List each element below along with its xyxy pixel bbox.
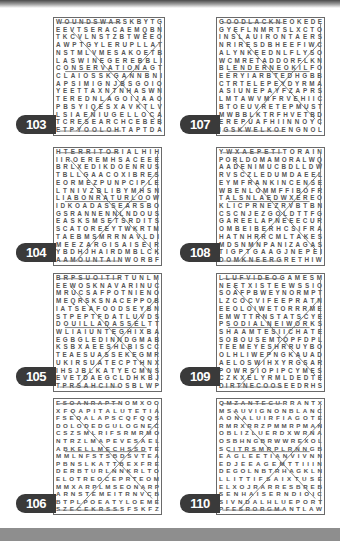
- puzzle-number-label: 107: [180, 115, 220, 134]
- puzzle-number-label: 105: [16, 367, 56, 386]
- word-search-grid: WOUNDSWARSKBYTGEEVTSERACAEMQBNTKCVLNSTZB…: [53, 17, 165, 136]
- found-word-lines: [217, 274, 325, 392]
- word-search-grid: HTERRITORIALHIHIIROEREMHSACEEEBRLXEDIKDO…: [53, 147, 162, 266]
- found-word-lines: [54, 18, 165, 136]
- top-shadow-bar: [0, 0, 340, 8]
- found-word-lines: [54, 148, 162, 266]
- found-word-lines: [54, 399, 162, 515]
- puzzle-number-label: 110: [180, 494, 220, 513]
- found-word-lines: [54, 274, 162, 392]
- word-search-grid: QMZANTECURRANTXMSAUVIGNONBLANCAONALUIRFI…: [216, 398, 325, 515]
- word-search-grid: ESOANRAPTNOMXOOXFOAPITALUTETIAFSEOALAPSC…: [53, 398, 162, 515]
- word-search-grid: LLUFVIDEOGAMESMNEETXISTEEWSSIOSOAFPBWEYN…: [216, 273, 325, 392]
- word-search-grid: GOODLACKNEOKEDEGYEFLNMRTSLXCTOINSLAUIRON…: [216, 17, 325, 136]
- word-search-grid: YWXAEPETITORAINPORLDOMAMORALWQAADENIMUCB…: [216, 147, 325, 266]
- found-word-lines: [217, 399, 325, 515]
- puzzle-number-label: 103: [16, 115, 56, 134]
- found-word-lines: [217, 18, 325, 136]
- puzzle-number-label: 109: [180, 367, 220, 386]
- puzzle-number-label: 108: [180, 243, 220, 262]
- word-search-grid: BRPSUOITIRTUNLMEEWOSKNAVARINUCMRUCSAFPOT…: [53, 273, 162, 392]
- found-word-lines: [217, 148, 325, 266]
- puzzle-number-label: 104: [16, 243, 56, 262]
- puzzle-number-label: 106: [16, 494, 56, 513]
- bottom-bar: [0, 528, 340, 541]
